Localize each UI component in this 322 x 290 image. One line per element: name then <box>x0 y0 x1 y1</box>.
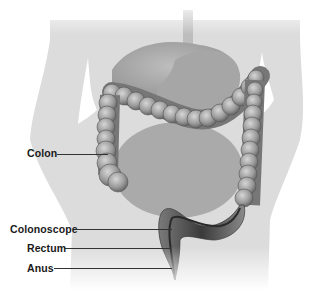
leader-line-anus <box>54 268 172 269</box>
label-colonoscope: Colonoscope <box>10 223 78 235</box>
label-rectum: Rectum <box>27 242 66 254</box>
label-anus: Anus <box>27 262 54 274</box>
label-colon: Colon <box>27 147 57 159</box>
leader-line-colon <box>57 154 108 155</box>
leader-line-colonoscope <box>76 229 172 230</box>
leader-line-rectum <box>64 248 170 249</box>
